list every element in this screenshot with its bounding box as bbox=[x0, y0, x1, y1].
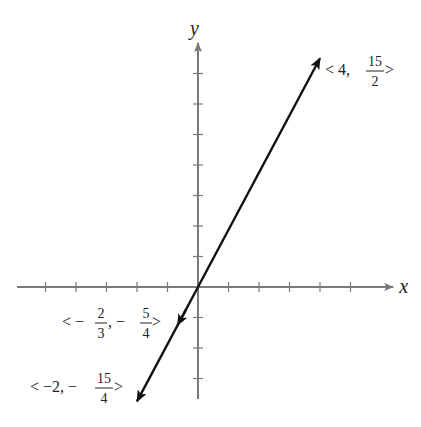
plot-svg: x y < 4, 15 2 > < − 2 3 , − 5 4 > < −2, … bbox=[0, 0, 421, 427]
label-suffix: > bbox=[152, 313, 161, 330]
fraction2-numerator: 5 bbox=[143, 306, 150, 321]
label-point-bottom: < −2, − 15 4 > bbox=[30, 371, 123, 406]
x-axis-label: x bbox=[398, 275, 408, 297]
fraction1-numerator: 2 bbox=[98, 306, 105, 321]
line-segment-up bbox=[198, 58, 320, 287]
fraction-denominator: 2 bbox=[372, 74, 379, 89]
label-suffix: > bbox=[385, 61, 394, 78]
fraction-numerator: 15 bbox=[368, 54, 382, 69]
vector-line bbox=[137, 58, 320, 401]
label-point-mid: < − 2 3 , − 5 4 > bbox=[62, 306, 161, 341]
label-prefix: < − bbox=[62, 313, 84, 330]
label-suffix: > bbox=[114, 378, 123, 395]
fraction1-denominator: 3 bbox=[98, 326, 105, 341]
label-prefix: < 4, bbox=[325, 61, 350, 78]
fraction2-denominator: 4 bbox=[143, 326, 150, 341]
fraction-denominator: 4 bbox=[101, 391, 108, 406]
axes bbox=[17, 43, 393, 399]
y-axis-label: y bbox=[188, 17, 199, 40]
label-prefix: < −2, − bbox=[30, 378, 77, 395]
coordinate-plane: x y < 4, 15 2 > < − 2 3 , − 5 4 > < −2, … bbox=[0, 0, 421, 427]
fraction-numerator: 15 bbox=[97, 371, 111, 386]
line-segment-down bbox=[137, 287, 198, 401]
interior-arrow bbox=[178, 310, 186, 325]
label-point-top: < 4, 15 2 > bbox=[325, 54, 394, 89]
label-middle: , − bbox=[108, 313, 125, 330]
